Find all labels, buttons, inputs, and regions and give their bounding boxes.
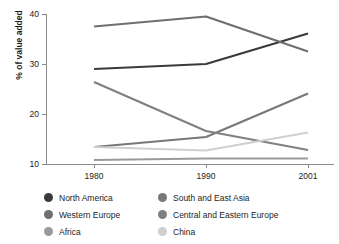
legend-marker-icon bbox=[158, 210, 167, 219]
legend-item[interactable]: South and East Asia bbox=[158, 193, 336, 203]
series-line bbox=[94, 159, 308, 161]
series-line bbox=[94, 17, 308, 52]
legend-marker-icon bbox=[44, 227, 53, 236]
x-tick-mark bbox=[308, 164, 309, 168]
series-line bbox=[94, 82, 308, 150]
x-tick-label: 1990 bbox=[197, 171, 216, 181]
legend-item[interactable]: Western Europe bbox=[44, 210, 158, 220]
y-tick-label: 40 bbox=[30, 9, 39, 19]
x-tick-mark bbox=[206, 164, 207, 168]
y-tick-label: 20 bbox=[30, 109, 39, 119]
legend-label: China bbox=[173, 227, 195, 237]
x-tick-mark bbox=[94, 164, 95, 168]
y-tick-label: 10 bbox=[30, 159, 39, 169]
x-tick-label: 2001 bbox=[299, 171, 318, 181]
legend-marker-icon bbox=[158, 193, 167, 202]
y-tick-label: 30 bbox=[30, 59, 39, 69]
legend-marker-icon bbox=[158, 227, 167, 236]
legend-label: Central and Eastern Europe bbox=[173, 210, 278, 220]
y-tick-mark bbox=[42, 164, 46, 165]
legend-item[interactable]: Central and Eastern Europe bbox=[158, 210, 336, 220]
chart-legend: North AmericaSouth and East AsiaWestern … bbox=[44, 189, 336, 240]
legend-marker-icon bbox=[44, 210, 53, 219]
legend-item[interactable]: Africa bbox=[44, 227, 158, 237]
x-axis-line bbox=[46, 164, 334, 165]
legend-label: North America bbox=[59, 193, 113, 203]
legend-label: Western Europe bbox=[59, 210, 120, 220]
y-axis-title: % of value added bbox=[14, 0, 24, 110]
legend-label: South and East Asia bbox=[173, 193, 250, 203]
series-lines bbox=[46, 14, 334, 164]
legend-marker-icon bbox=[44, 193, 53, 202]
plot-area: 10203040 198019902001 bbox=[46, 14, 334, 164]
legend-item[interactable]: China bbox=[158, 227, 336, 237]
series-line bbox=[94, 133, 308, 151]
legend-item[interactable]: North America bbox=[44, 193, 158, 203]
legend-label: Africa bbox=[59, 227, 81, 237]
x-tick-label: 1980 bbox=[85, 171, 104, 181]
line-chart: % of value added 10203040 198019902001 N… bbox=[0, 0, 339, 244]
series-line bbox=[94, 34, 308, 70]
